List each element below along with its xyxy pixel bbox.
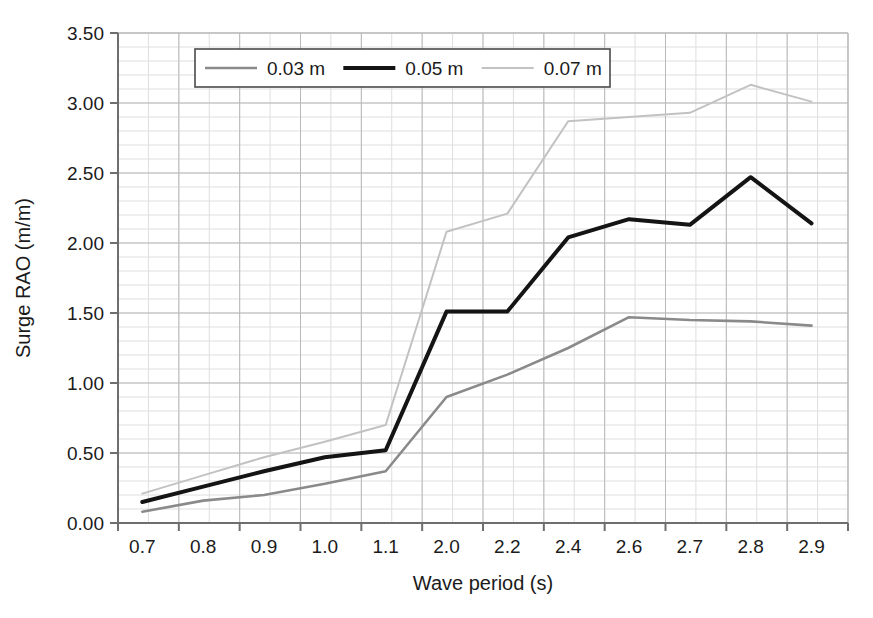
y-axis-tick-label: 3.00 xyxy=(67,93,104,114)
x-axis-tick-label: 1.0 xyxy=(312,536,338,557)
y-axis-tick-label: 2.00 xyxy=(67,233,104,254)
y-axis-tick-label: 1.00 xyxy=(67,373,104,394)
y-axis-tick-label: 2.50 xyxy=(67,163,104,184)
x-axis-tick-label: 1.1 xyxy=(372,536,398,557)
x-axis-tick-label: 2.8 xyxy=(737,536,763,557)
x-axis-tick-label: 2.0 xyxy=(433,536,459,557)
legend-label-0-07-m: 0.07 m xyxy=(544,58,602,79)
y-axis-tick-label: 1.50 xyxy=(67,303,104,324)
x-axis-tick-label: 2.6 xyxy=(616,536,642,557)
x-axis-tick-label: 2.2 xyxy=(494,536,520,557)
legend-label-0-05-m: 0.05 m xyxy=(405,58,463,79)
x-axis-tick-label: 0.8 xyxy=(190,536,216,557)
y-axis-tick-label: 0.50 xyxy=(67,443,104,464)
x-axis-tick-label: 2.7 xyxy=(677,536,703,557)
series-layer xyxy=(142,85,811,512)
x-axis-tick-label: 2.9 xyxy=(798,536,824,557)
x-axis-tick-label: 0.7 xyxy=(129,536,155,557)
x-axis-tick-label: 0.9 xyxy=(251,536,277,557)
series-line-0-07-m xyxy=(142,85,811,494)
legend-label-0-03-m: 0.03 m xyxy=(267,58,325,79)
chart-figure: 0.000.501.001.502.002.503.003.500.70.80.… xyxy=(0,0,873,618)
series-line-0-03-m xyxy=(142,317,811,512)
y-axis-tick-label: 3.50 xyxy=(67,23,104,44)
y-axis-title: Surge RAO (m/m) xyxy=(12,198,34,358)
x-axis-tick-label: 2.4 xyxy=(555,536,582,557)
grid-major-layer xyxy=(118,33,848,523)
y-axis-tick-label: 0.00 xyxy=(67,513,104,534)
legend: 0.03 m0.05 m0.07 m xyxy=(195,49,610,87)
surge-rao-line-chart: 0.000.501.001.502.002.503.003.500.70.80.… xyxy=(0,0,873,618)
x-axis-title: Wave period (s) xyxy=(413,572,553,594)
chart-render-root: 0.000.501.001.502.002.503.003.500.70.80.… xyxy=(12,23,848,594)
